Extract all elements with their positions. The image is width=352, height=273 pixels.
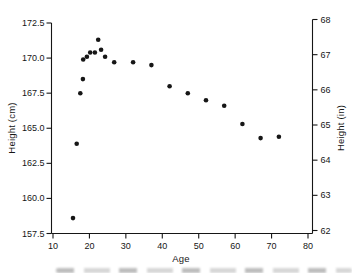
scatter-point: [96, 38, 101, 43]
x-tick-label: 40: [157, 241, 167, 251]
scatter-point: [88, 50, 93, 55]
scatter-point: [81, 77, 86, 82]
scatter-point: [258, 136, 263, 141]
x-tick-label: 30: [121, 241, 131, 251]
scatter-point: [103, 54, 108, 59]
scatter-point: [186, 91, 191, 96]
y-right-tick-label: 65: [321, 120, 331, 130]
scatter-point: [222, 104, 227, 109]
scatter-point: [74, 141, 79, 146]
x-axis-label: Age: [172, 253, 190, 264]
y-right-tick-label: 67: [321, 50, 331, 60]
y-left-tick-label: 170.0: [22, 53, 45, 63]
y-left-tick-label: 167.5: [22, 88, 45, 98]
y-right-tick-label: 66: [321, 85, 331, 95]
x-tick-label: 60: [230, 241, 240, 251]
figure: 157.5160.0162.5165.0167.5170.0172.562636…: [0, 0, 352, 273]
scatter-plot: 157.5160.0162.5165.0167.5170.0172.562636…: [0, 0, 352, 273]
scatter-point: [81, 57, 86, 62]
x-tick-label: 20: [84, 241, 94, 251]
scatter-point: [167, 84, 172, 89]
scatter-point: [131, 60, 136, 65]
scatter-point: [85, 54, 90, 59]
y-left-tick-label: 165.0: [22, 123, 45, 133]
scatter-point: [71, 216, 76, 221]
scatter-point: [93, 50, 98, 55]
y-left-tick-label: 162.5: [22, 158, 45, 168]
scatter-point: [78, 91, 83, 96]
y-right-tick-label: 64: [321, 155, 331, 165]
x-tick-label: 50: [194, 241, 204, 251]
cropped-caption-remnant: [56, 268, 352, 273]
x-tick-label: 80: [303, 241, 313, 251]
y-left-tick-label: 160.0: [22, 193, 45, 203]
y-axis-label-right: Height (in): [335, 105, 346, 151]
y-left-tick-label: 172.5: [22, 18, 45, 28]
scatter-point: [149, 63, 154, 68]
y-right-tick-label: 68: [321, 15, 331, 25]
x-tick-label: 70: [267, 241, 277, 251]
scatter-point: [277, 134, 282, 139]
scatter-point: [204, 98, 209, 103]
y-axis-label-left: Height (cm): [6, 102, 17, 153]
y-right-tick-label: 62: [321, 226, 331, 236]
scatter-point: [99, 47, 104, 52]
x-tick-label: 10: [48, 241, 58, 251]
y-right-tick-label: 63: [321, 190, 331, 200]
y-left-tick-label: 157.5: [22, 229, 45, 239]
scatter-point: [240, 122, 245, 127]
scatter-point: [112, 60, 117, 65]
